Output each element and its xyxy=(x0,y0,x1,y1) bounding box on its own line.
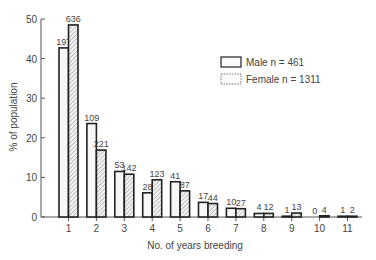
bar-male xyxy=(115,171,125,217)
x-tick-label: 7 xyxy=(233,223,239,234)
bar-male xyxy=(254,213,263,217)
x-tick-label: 1 xyxy=(66,223,72,234)
y-tick-label: 10 xyxy=(26,172,38,183)
bar-count-label: 4 xyxy=(257,202,262,212)
bar-count-label: 142 xyxy=(122,163,137,173)
bar-count-label: 12 xyxy=(264,202,274,212)
legend: Male n = 461Female n = 1311 xyxy=(221,57,321,85)
x-axis-title: No. of years breeding xyxy=(147,240,243,251)
legend-swatch-female xyxy=(221,74,241,84)
y-axis: 01020304050 xyxy=(26,14,45,223)
bar-male xyxy=(171,182,181,217)
bar-count-label: 109 xyxy=(84,113,99,123)
bar-female xyxy=(264,213,274,217)
bar-female xyxy=(292,213,302,217)
y-tick-label: 20 xyxy=(26,133,38,144)
x-tick-label: 2 xyxy=(94,223,100,234)
bar-female xyxy=(180,191,190,217)
bars: 1976361092215314228123418717441027412113… xyxy=(56,14,357,217)
bar-count-label: 44 xyxy=(208,193,218,203)
bar-male xyxy=(199,202,209,217)
x-tick-label: 5 xyxy=(177,223,183,234)
y-tick-label: 30 xyxy=(26,93,38,104)
x-tick-label: 4 xyxy=(149,223,155,234)
bar-female xyxy=(152,180,162,217)
bar-female xyxy=(124,174,134,217)
bar-count-label: 123 xyxy=(149,169,164,179)
x-axis: 1234567891011 xyxy=(41,217,362,234)
y-tick-label: 0 xyxy=(31,212,37,223)
bar-count-label: 221 xyxy=(94,139,109,149)
x-tick-label: 11 xyxy=(342,223,353,234)
bar-female xyxy=(208,204,218,217)
bar-male xyxy=(338,216,348,217)
bar-female xyxy=(96,150,106,217)
bar-count-label: 87 xyxy=(180,180,190,190)
bar-count-label: 1 xyxy=(284,205,289,215)
bar-male xyxy=(59,48,69,217)
bar-count-label: 4 xyxy=(322,205,327,215)
bar-female xyxy=(236,209,246,217)
bar-male xyxy=(226,208,236,217)
x-tick-label: 10 xyxy=(314,223,326,234)
bar-female xyxy=(348,216,358,217)
legend-label-male: Male n = 461 xyxy=(246,57,305,68)
bar-count-label: 2 xyxy=(350,205,355,215)
bar-count-label: 13 xyxy=(291,202,301,212)
bar-male xyxy=(143,193,153,217)
bar-count-label: 27 xyxy=(236,198,246,208)
x-tick-label: 8 xyxy=(261,223,267,234)
bar-male xyxy=(282,216,292,217)
legend-label-female: Female n = 1311 xyxy=(246,74,321,85)
bar-count-label: 636 xyxy=(66,14,81,24)
y-axis-title: % of population xyxy=(8,83,19,152)
y-tick-label: 40 xyxy=(26,54,38,65)
x-tick-label: 3 xyxy=(122,223,128,234)
bar-count-label: 28 xyxy=(142,182,152,192)
legend-swatch-male xyxy=(221,57,241,67)
bar-chart: 01020304050 1234567891011 19763610922153… xyxy=(0,0,376,260)
x-tick-label: 9 xyxy=(289,223,295,234)
bar-female xyxy=(69,25,79,217)
bar-count-label: 1 xyxy=(340,205,345,215)
bar-count-label: 0 xyxy=(312,206,317,216)
x-tick-label: 6 xyxy=(205,223,211,234)
bar-female xyxy=(320,216,330,217)
bar-count-label: 10 xyxy=(226,197,236,207)
bar-male xyxy=(87,124,97,217)
y-tick-label: 50 xyxy=(26,14,38,25)
